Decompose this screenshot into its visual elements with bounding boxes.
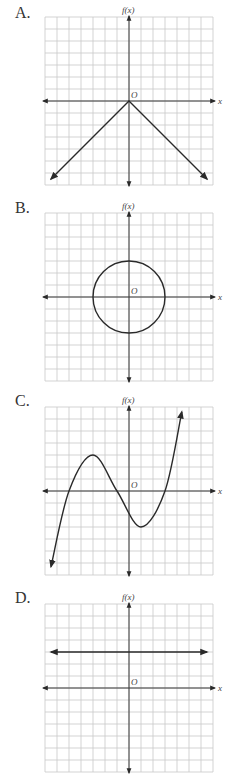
graph-c: f(x)xO	[0, 390, 234, 585]
function-curve	[51, 412, 182, 567]
y-axis-label: f(x)	[122, 592, 135, 602]
x-axis-label: x	[217, 486, 222, 496]
y-axis-label: f(x)	[122, 5, 135, 15]
y-axis-label: f(x)	[122, 395, 135, 405]
option-a: A. f(x)xO	[0, 0, 234, 195]
graph-b: f(x)xO	[0, 195, 234, 390]
x-axis-label: x	[217, 292, 222, 302]
option-c: C. f(x)xO	[0, 390, 234, 585]
option-b: B. f(x)xO	[0, 195, 234, 390]
graph-d: f(x)xO	[0, 585, 234, 775]
x-axis-label: x	[217, 96, 222, 106]
origin-label: O	[131, 480, 138, 490]
origin-label: O	[131, 90, 138, 100]
y-axis-label: f(x)	[122, 201, 135, 211]
origin-label: O	[131, 677, 138, 687]
option-d: D. f(x)xO	[0, 585, 234, 775]
x-axis-label: x	[217, 683, 222, 693]
graph-a: f(x)xO	[0, 0, 234, 195]
origin-label: O	[131, 286, 138, 296]
